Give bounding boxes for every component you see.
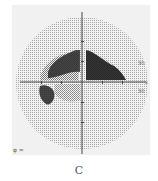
corner-label: φ ≈ bbox=[13, 146, 24, 153]
right-label-upper: 30 bbox=[138, 60, 144, 66]
right-label-lower: 30 bbox=[138, 88, 144, 94]
figure-caption: C bbox=[0, 164, 158, 177]
visual-field-plot bbox=[0, 0, 158, 181]
axis-end-label: x bbox=[145, 79, 148, 85]
